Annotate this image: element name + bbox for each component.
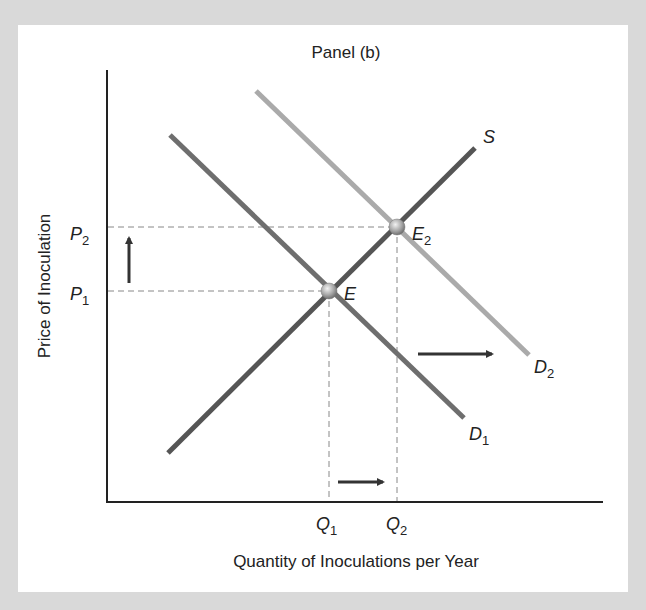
demand-curve-d1 (170, 135, 464, 418)
chart-title: Panel (b) (312, 43, 381, 62)
q1-label: Q1 (316, 514, 337, 538)
equilibrium-point-e2 (389, 219, 405, 235)
supply-curve (168, 148, 475, 453)
p2-label: P2 (70, 224, 89, 248)
e-label: E (344, 284, 357, 304)
d2-label: D2 (534, 357, 554, 381)
p1-label: P1 (70, 284, 89, 308)
y-axis-title: Price of Inoculation (35, 214, 54, 359)
x-axis-title: Quantity of Inoculations per Year (233, 552, 479, 571)
q2-label: Q2 (386, 514, 407, 538)
equilibrium-point-e (321, 283, 337, 299)
supply-label: S (483, 127, 495, 147)
d1-label: D1 (469, 424, 489, 448)
supply-demand-chart: Panel (b) S D2 D1 E E2 P2 P1 Q1 Q2 Quant… (0, 0, 646, 610)
